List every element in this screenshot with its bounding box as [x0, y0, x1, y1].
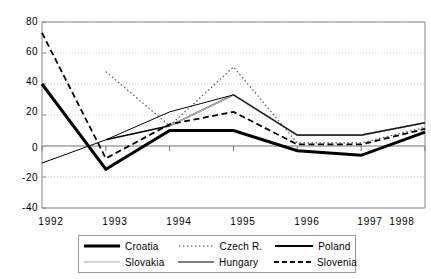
legend-entry-slovenia[interactable]: Slovenia — [274, 254, 352, 270]
legend-entry-hungary[interactable]: Hungary — [176, 254, 274, 270]
thick-solid-line-icon — [82, 240, 122, 252]
legend-entry-poland[interactable]: Poland — [275, 238, 352, 254]
dotted-line-icon — [177, 240, 217, 252]
legend-label: Poland — [315, 241, 350, 252]
legend-label: Czech R. — [217, 241, 263, 252]
light-solid-line-icon — [82, 256, 122, 268]
legend-row: Croatia Czech R. Poland — [82, 238, 352, 254]
thin-solid-line-icon — [176, 256, 216, 268]
legend-label: Croatia — [122, 241, 159, 252]
legend-entry-slovakia[interactable]: Slovakia — [82, 254, 176, 270]
legend-entry-czech-r[interactable]: Czech R. — [177, 238, 276, 254]
legend-label: Hungary — [216, 257, 258, 268]
line-chart: 80 60 40 20 0 -20 -40 1992 1993 1994 199… — [0, 0, 431, 279]
grid-lines — [42, 22, 425, 208]
solid-line-icon — [275, 240, 315, 252]
dashed-line-icon — [274, 256, 314, 268]
legend-entry-croatia[interactable]: Croatia — [82, 238, 177, 254]
series-line-croatia — [42, 84, 425, 169]
legend-row: Slovakia Hungary Slovenia — [82, 254, 352, 270]
legend-label: Slovenia — [314, 257, 357, 268]
legend: Croatia Czech R. Poland Slovakia — [78, 235, 356, 273]
legend-label: Slovakia — [122, 257, 164, 268]
